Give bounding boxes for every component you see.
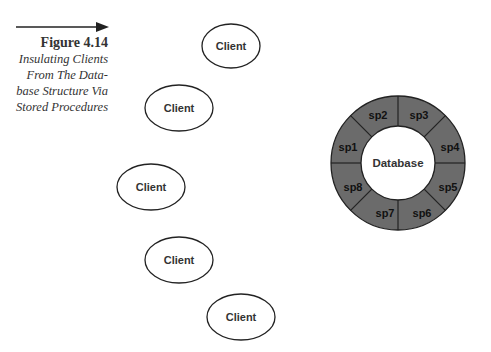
figure-caption: Figure 4.14 Insulating Clients From The … xyxy=(0,34,108,115)
figure-label: Figure 4.14 xyxy=(0,34,108,51)
client-3: Client xyxy=(145,237,213,283)
caption-line: base Structure Via xyxy=(0,83,108,99)
client-label: Client xyxy=(226,311,257,323)
procedure-sp8: sp8 xyxy=(344,181,363,193)
client-1: Client xyxy=(145,85,213,131)
database-label: Database xyxy=(372,157,423,169)
caption-line: From The Data- xyxy=(0,67,108,83)
caption-line: Stored Procedures xyxy=(0,99,108,115)
arrow-icon xyxy=(16,22,109,32)
client-label: Client xyxy=(164,254,195,266)
caption-line: Insulating Clients xyxy=(0,51,108,67)
client-0: Client xyxy=(202,24,260,68)
figure-description: Insulating Clients From The Data- base S… xyxy=(0,51,108,115)
client-4: Client xyxy=(207,294,275,340)
client-label: Client xyxy=(136,181,167,193)
procedure-sp4: sp4 xyxy=(441,141,461,153)
client-2: Client xyxy=(117,164,185,210)
client-label: Client xyxy=(216,40,247,52)
client-label: Client xyxy=(164,102,195,114)
procedure-sp1: sp1 xyxy=(339,141,358,153)
procedure-sp7: sp7 xyxy=(376,207,395,219)
procedure-sp2: sp2 xyxy=(369,109,388,121)
procedure-sp6: sp6 xyxy=(413,207,432,219)
database-ring: sp1 sp2 sp3 sp4 sp5 sp6 sp7 sp8 Database xyxy=(331,96,465,230)
procedure-sp3: sp3 xyxy=(410,109,429,121)
procedure-sp5: sp5 xyxy=(439,181,458,193)
